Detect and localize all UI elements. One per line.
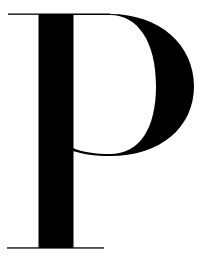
bowl [73, 14, 194, 156]
stem [39, 14, 74, 248]
letter-p-icon [0, 0, 207, 263]
